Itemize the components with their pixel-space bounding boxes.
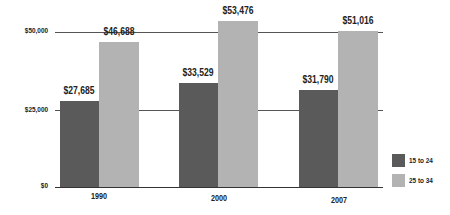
bar-chart: $50,000 $25,000 $0 $27,685 $46,688 1990 … [0,0,450,215]
legend-swatch [392,174,405,187]
legend-label: 15 to 24 [409,156,433,165]
value-label: $51,016 [335,14,382,26]
value-label: $27,685 [56,84,103,96]
bar-2007-15to24 [299,90,338,187]
bar-2000-15to24 [179,83,218,187]
bar-2000-25to34 [218,21,258,187]
y-tick-50000: $50,000 [10,26,48,35]
legend-item-25to34: 25 to 34 [392,174,439,187]
legend-item-15to24: 15 to 24 [392,154,439,167]
legend-swatch [392,154,405,167]
y-tick-0: $0 [10,181,48,190]
x-label-1990: 1990 [75,191,123,201]
x-axis-line [55,187,383,188]
value-label: $31,790 [295,73,342,85]
value-label: $53,476 [215,4,262,16]
x-label-2000: 2000 [195,193,243,203]
value-label: $33,529 [175,66,222,78]
bar-2007-25to34 [338,31,378,187]
y-tick-25000: $25,000 [10,105,48,114]
bar-1990-25to34 [99,42,139,187]
x-label-2007: 2007 [315,195,363,205]
value-label: $46,688 [96,25,143,37]
bar-1990-15to24 [60,101,99,187]
legend-label: 25 to 34 [409,176,433,185]
